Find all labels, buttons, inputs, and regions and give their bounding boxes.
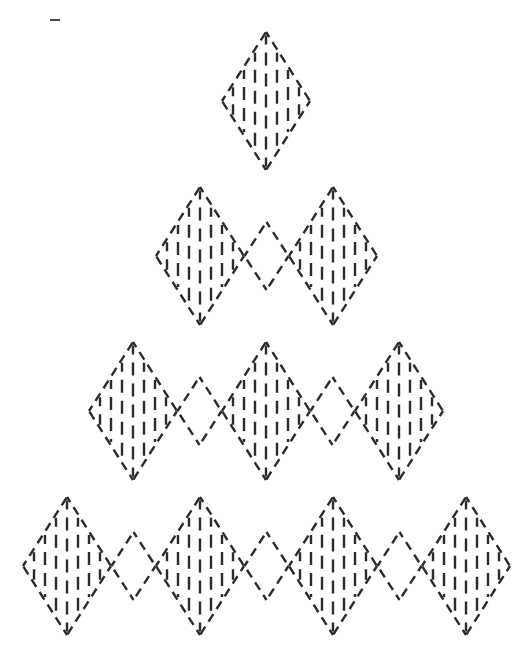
hatched-diamond (156, 497, 244, 635)
stray-dash (50, 19, 60, 21)
hatched-diamond (222, 32, 310, 170)
r3g0-edge-top-left (178, 377, 200, 411)
open-diamond (311, 377, 355, 445)
r3g1-edge-bottom-right (333, 411, 355, 445)
r4g1-edge-bottom-left (245, 566, 267, 600)
open-diamond (378, 532, 422, 600)
r2g0-edge-bottom-right (267, 256, 289, 290)
open-diamond (112, 532, 156, 600)
open-diamond (245, 532, 289, 600)
r4g1-edge-bottom-right (267, 566, 289, 600)
hatched-diamond (422, 497, 510, 635)
r4g0-edge-bottom-right (134, 566, 156, 600)
diamond-lattice-canvas (0, 0, 531, 666)
hatched-diamond (355, 342, 443, 480)
r4g2-edge-top-right (400, 532, 422, 566)
r4g2-edge-top-left (378, 532, 400, 566)
r2g0-edge-bottom-left (245, 256, 267, 290)
r4g0-edge-top-right (134, 532, 156, 566)
hatched-diamond (289, 187, 377, 325)
figure-root (0, 0, 531, 666)
r2g0-edge-top-left (245, 222, 267, 256)
r4g1-edge-top-left (245, 532, 267, 566)
r2g0-edge-top-right (267, 222, 289, 256)
r3g1-edge-top-left (311, 377, 333, 411)
hatched-diamond (23, 497, 111, 635)
open-diamond (245, 222, 289, 290)
open-diamond (178, 377, 222, 445)
r3g1-edge-bottom-left (311, 411, 333, 445)
r4g2-edge-bottom-right (400, 566, 422, 600)
hatched-diamond (222, 342, 310, 480)
r3g0-edge-bottom-right (200, 411, 222, 445)
lattice-layer (23, 32, 510, 635)
r4g2-edge-bottom-left (378, 566, 400, 600)
r4g1-edge-top-right (267, 532, 289, 566)
hatched-diamond (89, 342, 177, 480)
hatched-diamond (289, 497, 377, 635)
r4g0-edge-top-left (112, 532, 134, 566)
r3g0-edge-bottom-left (178, 411, 200, 445)
r3g1-edge-top-right (333, 377, 355, 411)
hatched-diamond (156, 187, 244, 325)
r3g0-edge-top-right (200, 377, 222, 411)
r4g0-edge-bottom-left (112, 566, 134, 600)
